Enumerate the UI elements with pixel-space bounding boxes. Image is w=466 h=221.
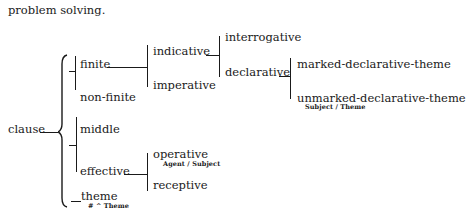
root-feature-clause: clause [8,124,45,136]
indicative-connector [206,55,219,56]
effective-connector [124,174,147,175]
feature-imperative: imperative [153,80,216,92]
realization-agent-subject: Agent / Subject [163,161,220,168]
indicative-type-bracket [219,36,220,77]
feature-interrogative: interrogative [225,32,301,44]
feature-effective: effective [80,166,130,178]
realization-subject-theme: Subject / Theme [305,104,366,111]
theme-connector [71,201,81,202]
feature-middle: middle [80,124,120,136]
declarative-connector [279,76,290,77]
feature-operative: operative [153,149,208,161]
agency-entry-tick [69,145,76,146]
agency-bracket [76,117,77,172]
feature-receptive: receptive [153,180,208,192]
feature-theme: theme [81,191,118,203]
feature-indicative: indicative [153,46,210,58]
mood-bracket [147,45,148,87]
feature-non-finite: non-finite [80,92,136,104]
preceding-text: problem solving. [8,5,105,17]
simultaneous-brace [58,54,70,208]
feature-marked-declarative-theme: marked-declarative-theme [297,59,451,71]
root-connector [40,132,58,133]
realization-theme-initial: # ^ Theme [88,203,129,210]
finiteness-bracket [75,56,76,90]
finite-connector [107,67,147,68]
voice-bracket [147,153,148,191]
feature-finite: finite [80,59,110,71]
declarative-theme-bracket [290,58,291,99]
